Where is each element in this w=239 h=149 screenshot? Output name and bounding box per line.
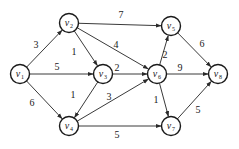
node-v6: v6 <box>148 65 167 84</box>
edge-weight-v4-v7: 5 <box>115 129 120 140</box>
directed-graph: 356714123529165 v1v2v3v4v5v6v7v8 <box>0 0 239 149</box>
node-subscript: 2 <box>70 23 73 29</box>
edge-weight-v7-v8: 5 <box>196 104 201 115</box>
node-v2: v2 <box>60 14 79 33</box>
edge-weight-v2-v3: 1 <box>72 46 77 57</box>
node-subscript: 8 <box>219 74 222 80</box>
edge-v3-v4 <box>74 82 97 118</box>
edges <box>27 23 212 126</box>
node-subscript: 1 <box>21 74 24 80</box>
edge-v5-v8 <box>178 33 211 67</box>
edge-weight-v3-v4: 1 <box>71 89 76 100</box>
edge-weight-v1-v2: 3 <box>34 39 39 50</box>
node-subscript: 7 <box>172 126 175 132</box>
edge-v6-v7 <box>159 83 168 116</box>
edge-weight-v4-v6: 3 <box>107 91 112 102</box>
node-subscript: 5 <box>172 26 175 32</box>
edge-weight-v6-v7: 1 <box>154 94 159 105</box>
edge-weight-v2-v5: 7 <box>119 9 124 20</box>
edge-weight-v5-v8: 6 <box>200 38 205 49</box>
edge-weight-v1-v4: 6 <box>30 97 35 108</box>
node-subscript: 6 <box>158 74 161 80</box>
edge-v7-v8 <box>177 81 211 119</box>
node-v7: v7 <box>162 117 181 136</box>
edge-v2-v5 <box>78 23 161 25</box>
node-v8: v8 <box>209 65 228 84</box>
node-v3: v3 <box>94 65 113 84</box>
node-v1: v1 <box>11 65 30 84</box>
edge-v4-v6 <box>77 79 148 121</box>
node-v5: v5 <box>162 17 181 36</box>
edge-weight-v2-v6: 4 <box>114 39 119 50</box>
edge-weight-v1-v3: 5 <box>55 61 60 72</box>
node-v4: v4 <box>60 117 79 136</box>
node-subscript: 4 <box>70 126 73 132</box>
node-subscript: 3 <box>104 74 107 80</box>
edge-weight-v3-v6: 2 <box>115 62 120 73</box>
edge-v2-v3 <box>74 31 97 66</box>
edge-weight-v6-v8: 9 <box>178 62 183 73</box>
edge-weight-v6-v5: 2 <box>163 49 168 60</box>
